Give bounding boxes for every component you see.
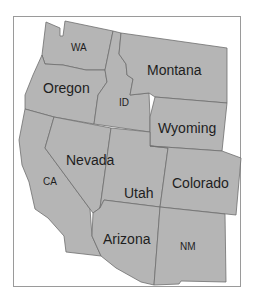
label-idaho: ID [119, 97, 129, 108]
label-utah: Utah [124, 185, 154, 201]
label-nm: NM [180, 241, 196, 252]
label-arizona: Arizona [103, 231, 151, 247]
label-oregon: Oregon [43, 80, 90, 96]
label-wa: WA [71, 42, 87, 53]
label-montana: Montana [147, 62, 202, 78]
label-wyoming: Wyoming [158, 120, 216, 136]
label-colorado: Colorado [172, 175, 229, 191]
western-states-map: WA Oregon ID Montana Wyoming CA Nevada U… [0, 0, 255, 303]
label-ca: CA [43, 176, 57, 187]
label-nevada: Nevada [66, 152, 114, 168]
